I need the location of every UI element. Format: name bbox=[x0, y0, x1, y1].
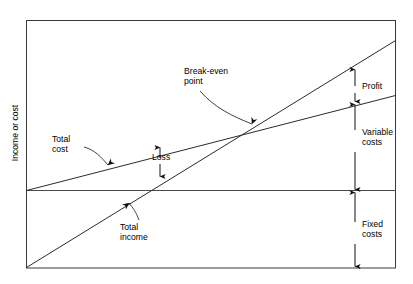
total-income-leader bbox=[129, 203, 139, 220]
break-even-chart: Income or cost Break-even point Total co… bbox=[0, 0, 413, 284]
y-axis-title: Income or cost bbox=[10, 90, 20, 176]
fixed-costs-label: Fixed costs bbox=[362, 219, 383, 240]
break-even-leader bbox=[200, 91, 252, 124]
total-cost-leader bbox=[84, 147, 108, 165]
total-cost-line bbox=[27, 96, 396, 191]
break-even-point-label: Break-even point bbox=[184, 66, 228, 87]
loss-label: Loss bbox=[152, 152, 170, 162]
profit-label: Profit bbox=[362, 81, 382, 91]
total-income-label: Total income bbox=[120, 222, 148, 243]
variable-costs-label: Variable costs bbox=[362, 127, 393, 148]
total-cost-label: Total cost bbox=[52, 134, 70, 155]
plot-frame bbox=[27, 21, 396, 269]
